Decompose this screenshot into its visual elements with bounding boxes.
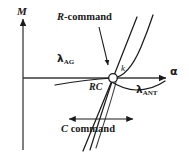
y-axis-label: M — [17, 6, 27, 17]
x-axis-label: α — [170, 66, 178, 77]
r-command-rest: -command — [64, 11, 112, 22]
k-slope-label: k — [121, 64, 125, 73]
r-command-label: R-command — [57, 12, 112, 23]
r-command-italic-part: R — [57, 11, 64, 22]
lambda-ag-label: λAG — [57, 53, 74, 65]
c-command-label: C command — [61, 124, 115, 135]
lambda-ant-subscript: ANT — [143, 89, 158, 97]
r-command-leader-arrow — [99, 27, 108, 65]
rc-intersection-circle — [109, 74, 118, 83]
figure-container: M α R-command C command λAG λANT RC k — [0, 0, 189, 156]
c-command-rest: command — [68, 123, 115, 134]
lambda-ant-label: λANT — [136, 84, 157, 96]
c-command-italic-part: C — [61, 123, 68, 134]
lambda-ag-subscript: AG — [64, 58, 75, 66]
rc-point-label: RC — [89, 82, 102, 92]
lambda-ag-curve — [55, 15, 153, 85]
lambda-glyph-ant: λ — [136, 83, 143, 95]
lambda-glyph-ag: λ — [57, 52, 64, 64]
